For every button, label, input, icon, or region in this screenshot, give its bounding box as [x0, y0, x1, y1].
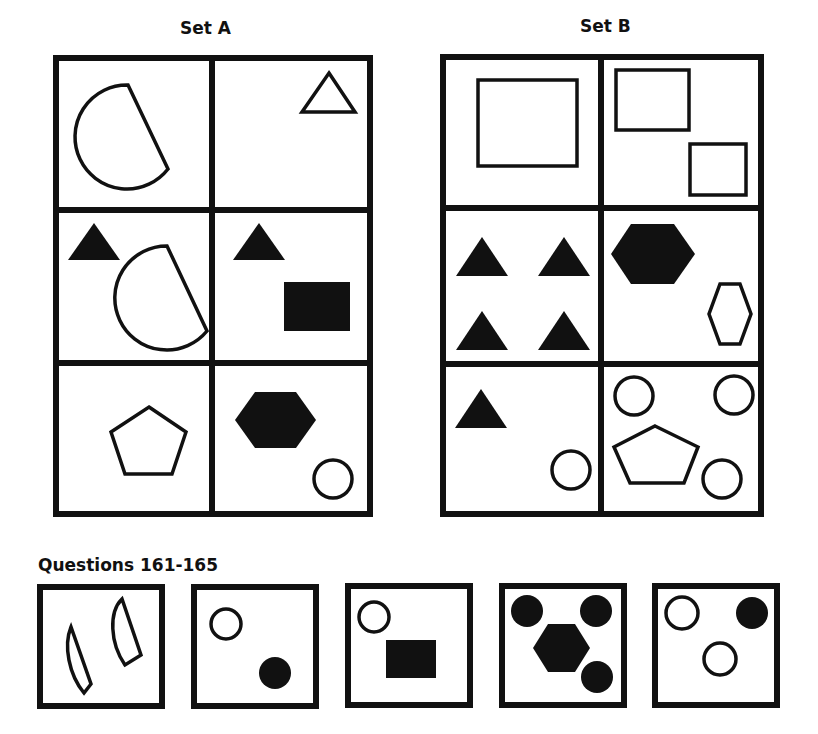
hexagon-filled-shape: [235, 392, 316, 448]
circle-filled-shape: [581, 661, 613, 693]
circle-outline-shape: [703, 460, 741, 498]
triangle-filled-shape: [538, 237, 590, 276]
semicircle-shape: [75, 85, 168, 189]
triangle-filled-shape: [233, 223, 285, 260]
triangle-filled-shape: [455, 389, 507, 428]
puzzle-diagram: [0, 0, 818, 734]
set-b-grid: [443, 57, 761, 514]
pentagon-outline-shape: [111, 407, 186, 474]
rectangle-filled-shape: [284, 282, 350, 331]
circle-outline-shape: [666, 597, 698, 629]
question-163-box[interactable]: [348, 586, 470, 705]
hexagon-filled-shape: [611, 224, 695, 284]
rectangle-filled-shape: [386, 640, 436, 678]
circle-outline-shape: [359, 602, 389, 632]
circle-outline-shape: [704, 643, 736, 675]
circle-outline-shape: [314, 460, 352, 498]
rectangle-outline-shape: [690, 144, 746, 195]
question-164-box[interactable]: [502, 586, 624, 705]
circle-filled-shape: [511, 595, 543, 627]
rectangle-outline-shape: [616, 70, 689, 130]
hexagon-filled-shape: [533, 624, 590, 672]
pentagon-outline-shape: [614, 426, 698, 483]
triangle-filled-shape: [456, 311, 508, 350]
triangle-filled-shape: [538, 311, 590, 350]
rectangle-outline-shape: [478, 80, 577, 166]
question-162-box[interactable]: [194, 587, 316, 706]
circle-outline-shape: [552, 451, 590, 489]
triangle-filled-shape: [456, 237, 508, 276]
circle-outline-shape: [715, 376, 753, 414]
triangle-filled-shape: [68, 223, 120, 260]
question-165-box[interactable]: [655, 586, 777, 705]
circle-outline-shape: [211, 609, 241, 639]
semicircle-shape: [113, 599, 141, 665]
circle-outline-shape: [615, 377, 653, 415]
circle-filled-shape: [580, 595, 612, 627]
semicircle-shape: [115, 246, 207, 350]
question-161-box[interactable]: [40, 587, 162, 706]
circle-filled-shape: [259, 657, 291, 689]
circle-filled-shape: [736, 597, 768, 629]
semicircle-shape: [68, 627, 91, 693]
triangle-outline-shape: [302, 73, 355, 112]
hexagon-outline-shape: [709, 284, 751, 344]
